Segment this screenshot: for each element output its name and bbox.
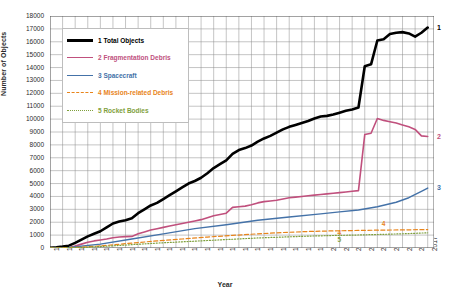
legend-label: 2 Fragmentation Debris [98, 54, 171, 61]
series-end-label-3: 3 [437, 184, 441, 191]
series-end-label-2: 2 [437, 133, 441, 140]
legend-item-5: 5 Rocket Bodies [67, 103, 149, 117]
series-end-label-1: 1 [437, 24, 441, 31]
legend-swatch-icon [67, 92, 93, 93]
legend-item-2: 2 Fragmentation Debris [67, 51, 171, 65]
series-end-label-5: 5 [338, 236, 342, 243]
legend-swatch-icon [67, 110, 93, 111]
chart-container: Number of Objects Year 01000200030004000… [0, 0, 450, 297]
legend-label: 3 Spacecraft [98, 72, 137, 79]
legend-item-1: 1 Total Objects [67, 33, 144, 47]
legend-item-4: 4 Mission-related Debris [67, 86, 173, 100]
chart-legend: 1 Total Objects2 Fragmentation Debris3 S… [62, 28, 189, 123]
legend-label: 1 Total Objects [98, 37, 144, 44]
legend-swatch-icon [67, 75, 93, 76]
legend-label: 5 Rocket Bodies [98, 107, 149, 114]
series-end-label-4: 4 [382, 220, 386, 227]
legend-swatch-icon [67, 57, 93, 58]
legend-label: 4 Mission-related Debris [98, 89, 173, 96]
legend-item-3: 3 Spacecraft [67, 68, 137, 82]
legend-swatch-icon [67, 39, 93, 42]
